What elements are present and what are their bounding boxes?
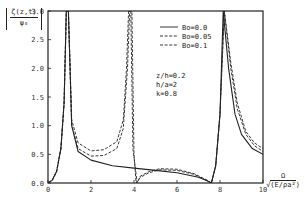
- y-axis-label: ζ(z,t) ψ₀: [4, 8, 44, 27]
- frequency-response-chart: 02468100.00.51.01.52.02.53.0 Bo=0.0Bo=0.…: [0, 0, 304, 203]
- y-tick-label: 2.0: [31, 65, 44, 73]
- y-tick-label: 2.5: [31, 36, 44, 44]
- y-tick-label: 1.5: [31, 94, 44, 102]
- annotation-line: k=0.8: [156, 90, 177, 98]
- x-tick-label: 6: [175, 186, 179, 194]
- annotation-line: h/a=2: [156, 81, 177, 89]
- abs-bar-left: [6, 8, 7, 30]
- x-tick-label: 4: [132, 186, 136, 194]
- x-label-numerator: Ω: [270, 172, 296, 181]
- x-tick-label: 0: [46, 186, 50, 194]
- x-tick-label: 8: [218, 186, 222, 194]
- y-tick-label: 0.5: [31, 151, 44, 159]
- y-tick-label: 1.0: [31, 122, 44, 130]
- plot-axes: 02468100.00.51.01.52.02.53.0: [31, 8, 267, 195]
- x-label-denominator: √(E/ρa²): [266, 181, 300, 189]
- legend-label: Bo=0.1: [182, 42, 207, 50]
- legend-label: Bo=0.0: [182, 24, 207, 32]
- abs-bar-right: [41, 8, 42, 30]
- y-label-denominator: ψ₀: [4, 18, 44, 27]
- x-tick-label: 2: [89, 186, 93, 194]
- legend: Bo=0.0Bo=0.05Bo=0.1: [160, 24, 212, 50]
- y-label-numerator: ζ(z,t): [10, 8, 38, 18]
- x-axis-label: Ω √(E/ρa²): [266, 172, 300, 189]
- annotation-line: z/h=0.2: [156, 72, 186, 80]
- legend-label: Bo=0.05: [182, 33, 212, 41]
- parameter-annotation: z/h=0.2h/a=2k=0.8: [156, 72, 186, 98]
- y-tick-label: 0.0: [31, 180, 44, 188]
